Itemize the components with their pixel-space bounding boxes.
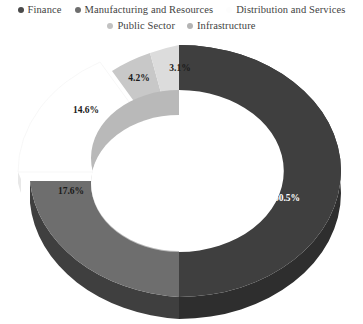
value-label-public-sector: 4.2% [128,73,149,83]
legend-item-public-sector[interactable]: Public Sector [107,19,175,33]
legend-label-finance: Finance [28,3,62,17]
legend-item-distribution-and-services[interactable]: Distribution and Services [226,3,345,17]
legend-item-manufacturing-and-resources[interactable]: Manufacturing and Resources [75,3,214,17]
legend-label-distribution-and-services: Distribution and Services [236,3,345,17]
legend-dot-icon [75,7,81,13]
distribution-side-wall [18,172,21,193]
chart-plot-area: 60.5% 17.6% 14.6% 4.2% 3.1% [0,38,363,324]
legend-dot-icon [18,7,24,13]
value-label-infrastructure: 3.1% [169,63,190,73]
value-label-finance: 60.5% [274,193,300,203]
legend-item-infrastructure[interactable]: Infrastructure [187,19,256,33]
chart-legend: Finance Manufacturing and Resources Dist… [0,0,363,33]
legend-row-2: Public Sector Infrastructure [0,19,363,33]
legend-dot-icon [226,7,232,13]
value-label-distribution-and-services: 14.6% [73,105,99,115]
donut-hole [91,115,267,251]
value-label-manufacturing-and-resources: 17.6% [58,186,84,196]
legend-dot-icon [187,23,193,29]
legend-item-finance[interactable]: Finance [18,3,62,17]
legend-dot-icon [107,23,113,29]
donut-chart-svg: 60.5% 17.6% 14.6% 4.2% 3.1% [0,38,363,324]
legend-label-infrastructure: Infrastructure [197,19,256,33]
donut-chart-figure: Finance Manufacturing and Resources Dist… [0,0,363,324]
legend-label-manufacturing-and-resources: Manufacturing and Resources [85,3,214,17]
legend-label-public-sector: Public Sector [117,19,175,33]
legend-row-1: Finance Manufacturing and Resources Dist… [0,3,363,17]
